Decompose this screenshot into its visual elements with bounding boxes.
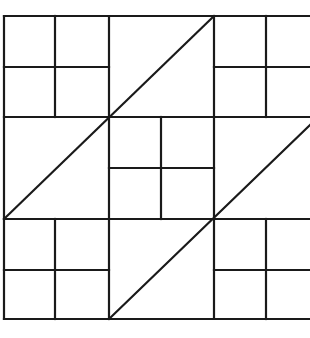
tiling-diagram	[0, 0, 310, 338]
